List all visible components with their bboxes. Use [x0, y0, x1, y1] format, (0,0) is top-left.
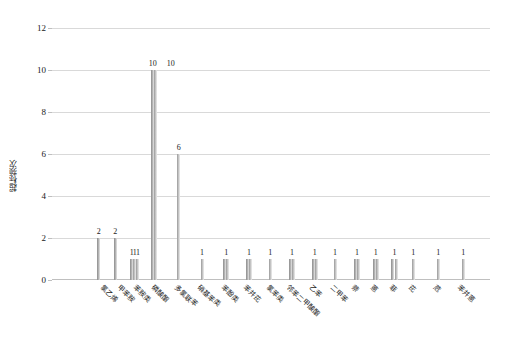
x-axis-category-label: 苊	[431, 282, 443, 294]
bar	[154, 70, 157, 280]
bar	[357, 259, 360, 280]
bar-value-label: 1	[355, 248, 359, 257]
x-axis-category-label: 二甲苯	[328, 282, 351, 304]
bar	[201, 259, 204, 280]
bar	[412, 259, 415, 280]
bar-value-label: 1	[247, 248, 251, 257]
bar-value-label: 2	[113, 227, 117, 236]
bars-layer: 22111101061111111111111	[52, 28, 490, 280]
bar	[249, 259, 252, 280]
bar	[226, 259, 229, 280]
bar	[437, 259, 440, 280]
x-axis-category-label: 芘	[407, 282, 419, 294]
y-axis-tick-label: 0	[42, 275, 47, 285]
x-axis-category-label: 磷酸酯	[149, 282, 172, 304]
bar-chart-figure: 超标频次 024681012 22111101061111111111111 氯…	[0, 0, 511, 352]
x-axis-category-label: 蒽	[368, 282, 380, 294]
bar-value-label: 1	[333, 248, 337, 257]
bar	[114, 238, 117, 280]
bar	[462, 259, 465, 280]
x-axis-category-label: 萘	[350, 282, 362, 294]
bar	[315, 259, 318, 280]
x-axis-category-label: 多氯联苯	[172, 282, 200, 309]
bar-value-label: 1	[200, 248, 204, 257]
bar-value-label: 1	[374, 248, 378, 257]
x-axis-category-label: 氯苯类	[264, 282, 287, 304]
bar-value-label: 1	[411, 248, 415, 257]
bar	[177, 154, 180, 280]
y-axis-tick-label: 12	[37, 23, 46, 33]
bar	[136, 259, 139, 280]
bar-value-label: 10	[149, 59, 157, 68]
bar	[376, 259, 379, 280]
bar-value-label: 1	[290, 248, 294, 257]
x-axis-category-label: 苯并蒽	[455, 282, 478, 304]
x-axis-category-label: 乙苯	[307, 282, 324, 299]
plot-area: 024681012 22111101061111111111111	[52, 28, 490, 280]
x-axis-category-label: 菲	[387, 282, 399, 294]
bar-value-label: 1	[136, 248, 140, 257]
y-axis-title: 超标频次	[8, 160, 19, 192]
bar-value-label: 1	[224, 248, 228, 257]
bar-value-label: 1	[461, 248, 465, 257]
bar-value-label: 1	[268, 248, 272, 257]
y-axis-tick-label: 4	[42, 191, 47, 201]
y-axis-tick-label: 6	[42, 149, 47, 159]
y-axis-tick-label: 10	[37, 65, 46, 75]
bar-value-label: 10	[167, 59, 175, 68]
bar-value-label: 1	[313, 248, 317, 257]
x-axis-category-label: 苯并芘	[242, 282, 265, 304]
bar-value-label: 1	[436, 248, 440, 257]
bar-value-label: 1	[393, 248, 397, 257]
bar	[334, 259, 337, 280]
bar	[97, 238, 100, 280]
bar-value-label: 2	[97, 227, 101, 236]
bar	[395, 259, 398, 280]
bar-value-label: 6	[177, 143, 181, 152]
x-axis-labels: 氯乙烯甲苯胺苯胺类磷酸酯多氯联苯硝基苯类苯酚类苯并芘氯苯类邻苯二甲酸酯乙苯二甲苯…	[52, 282, 490, 352]
x-axis-category-label: 硝基苯类	[195, 282, 223, 309]
bar	[269, 259, 272, 280]
y-axis-tick-label: 2	[42, 233, 47, 243]
y-axis-tick-mark	[48, 280, 52, 281]
bar	[292, 259, 295, 280]
y-axis-tick-label: 8	[42, 107, 47, 117]
